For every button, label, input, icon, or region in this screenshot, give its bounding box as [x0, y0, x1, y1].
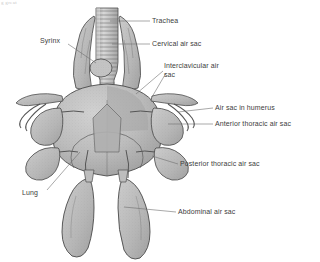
cervical-air-sac-left	[73, 16, 95, 92]
label-abdominal-air-sac: Abdominal air sac	[178, 208, 235, 217]
label-cervical-air-sac: Cervical air sac	[152, 40, 201, 49]
abdominal-air-sac-right	[118, 170, 150, 259]
label-air-sac-in-humerus: Air sac in humerus	[215, 104, 275, 113]
label-posterior-thoracic-air-sac: Posterior thoracic air sac	[180, 160, 260, 169]
interclavicular-air-sac	[52, 84, 163, 176]
label-anterior-thoracic-air-sac: Anterior thoracic air sac	[215, 120, 291, 129]
syrinx	[90, 59, 112, 77]
label-lung: Lung	[22, 189, 38, 198]
abdominal-air-sac-left	[62, 170, 94, 257]
label-syrinx: Syrinx	[40, 37, 60, 46]
label-interclavicular-air-sac: Interclavicular air sac	[164, 62, 226, 79]
cervical-air-sac-right	[119, 16, 141, 92]
label-trachea: Trachea	[152, 17, 178, 26]
